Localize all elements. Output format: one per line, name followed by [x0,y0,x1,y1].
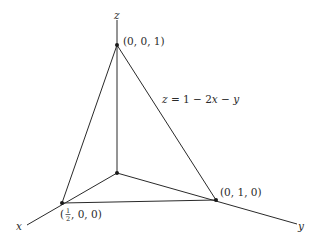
x-intercept-label: ( 1 2 , 0, 0) [60,207,102,223]
x-intercept-label-suffix: , 0, 0) [71,208,102,220]
origin-point [115,171,119,175]
y-intercept-label: (0, 1, 0) [220,186,262,198]
z-axis-label: z [113,9,120,21]
y-axis-label: y [297,220,305,232]
equation-minus: − [218,93,233,105]
apex-label: (0, 0, 1) [123,35,165,47]
y-axis [117,173,297,224]
x-intercept-point [60,201,64,205]
x-intercept-label-prefix: ( [60,208,64,220]
x-axis-label: x [16,220,22,232]
equation-eq: = 1 − 2 [168,93,212,105]
plane-equation: z = 1 − 2x − y [161,93,240,105]
edge-apex-to-x-intercept [62,45,117,203]
tetrahedron-diagram: z x y (0, 0, 1) (0, 1, 0) ( 1 2 , 0, 0) … [0,0,316,242]
x-intercept-frac-den: 2 [66,215,70,223]
apex-point [115,43,119,47]
x-intercept-frac-num: 1 [66,207,70,215]
equation-var2: y [232,93,240,105]
edge-x-to-y-intercept [62,200,216,203]
y-intercept-point [214,198,218,202]
